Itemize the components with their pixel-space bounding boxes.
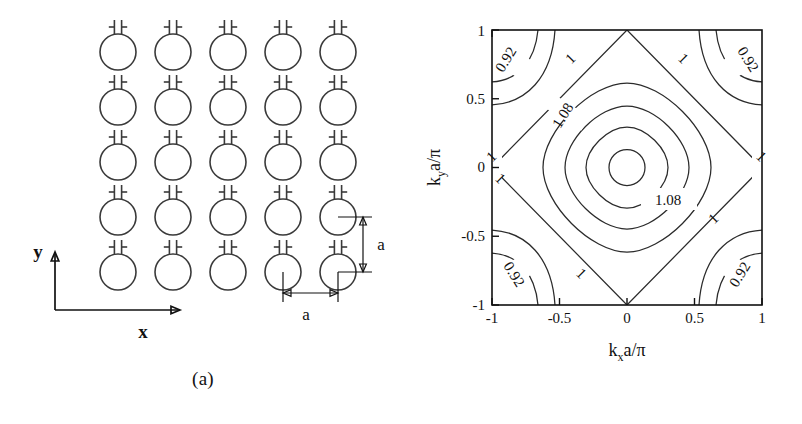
axis-label-y: y bbox=[33, 241, 43, 262]
srr-element bbox=[155, 20, 191, 70]
contour-level-1 bbox=[492, 30, 762, 305]
srr-element bbox=[155, 240, 191, 290]
x-tick-label: 1 bbox=[758, 310, 766, 326]
y-tick-label: -1 bbox=[473, 297, 486, 313]
y-tick-label: 0.5 bbox=[466, 91, 485, 107]
srr-element bbox=[265, 75, 301, 125]
y-axis-title-k: k bbox=[424, 177, 444, 186]
srr-element bbox=[320, 130, 356, 180]
srr-element bbox=[320, 75, 356, 125]
srr-element bbox=[210, 185, 246, 235]
x-tick-label: 0.5 bbox=[685, 310, 704, 326]
y-axis-title: kya/π bbox=[424, 149, 448, 186]
figure-root: a a y x (a) bbox=[0, 0, 802, 424]
dimension-label-horizontal: a bbox=[302, 305, 310, 324]
srr-element bbox=[265, 20, 301, 70]
srr-element bbox=[320, 185, 356, 235]
srr-element bbox=[265, 130, 301, 180]
panel-a-lattice-schematic: a a y x (a) bbox=[0, 0, 400, 424]
x-axis-title-rest: a/π bbox=[623, 340, 645, 360]
srr-element bbox=[100, 75, 136, 125]
srr-element bbox=[100, 185, 136, 235]
contour-field bbox=[486, 30, 769, 305]
y-tick-label: 0 bbox=[478, 159, 486, 175]
srr-element bbox=[320, 20, 356, 70]
panel-b-contour-plot: 0.92 0.92 0.92 0.92 1 1 1 1 1 1 1 1.08 1… bbox=[400, 0, 802, 424]
y-axis-title-rest: a/π bbox=[424, 149, 444, 171]
contour-labels: 0.92 0.92 0.92 0.92 1 1 1 1 1 1 1 1.08 1… bbox=[483, 44, 770, 290]
srr-element bbox=[210, 240, 246, 290]
contour-label-1p08-inner: 1.08 bbox=[655, 192, 681, 208]
coordinate-axes: y x bbox=[33, 241, 180, 342]
axis-label-x: x bbox=[138, 321, 148, 342]
srr-array bbox=[100, 20, 356, 290]
y-tick-label: -0.5 bbox=[461, 228, 485, 244]
dimension-label-vertical: a bbox=[377, 235, 385, 254]
x-tick-label: 0 bbox=[623, 310, 631, 326]
svg-text:kxa/π: kxa/π bbox=[608, 340, 645, 364]
srr-element bbox=[210, 75, 246, 125]
srr-element bbox=[100, 130, 136, 180]
svg-text:kya/π: kya/π bbox=[424, 149, 448, 186]
panel-a-caption: (a) bbox=[192, 368, 214, 390]
dimension-vertical-a: a bbox=[338, 217, 385, 272]
srr-element bbox=[155, 185, 191, 235]
srr-element bbox=[265, 185, 301, 235]
dimension-horizontal-a: a bbox=[283, 272, 338, 324]
srr-element bbox=[210, 20, 246, 70]
contour-label-1-lower-right: 1 bbox=[705, 210, 722, 227]
srr-element bbox=[155, 75, 191, 125]
panel-b-canvas: 0.92 0.92 0.92 0.92 1 1 1 1 1 1 1 1.08 1… bbox=[400, 0, 802, 424]
srr-element bbox=[210, 130, 246, 180]
x-axis-title-k: k bbox=[608, 340, 617, 360]
srr-element bbox=[155, 130, 191, 180]
srr-element bbox=[100, 20, 136, 70]
contour-innermost-circle bbox=[609, 150, 645, 186]
x-tick-label: -1 bbox=[486, 310, 499, 326]
y-tick-labels: -1 -0.5 0 0.5 1 bbox=[461, 23, 485, 313]
x-axis-title: kxa/π bbox=[608, 340, 645, 364]
srr-element bbox=[100, 240, 136, 290]
contour-level-0p92 bbox=[492, 30, 762, 305]
panel-a-canvas: a a y x bbox=[0, 0, 400, 424]
plot-frame bbox=[492, 30, 762, 305]
x-tick-label: -0.5 bbox=[548, 310, 572, 326]
axis-ticks bbox=[492, 30, 762, 305]
x-tick-labels: -1 -0.5 0 0.5 1 bbox=[486, 310, 766, 326]
y-tick-label: 1 bbox=[478, 23, 486, 39]
